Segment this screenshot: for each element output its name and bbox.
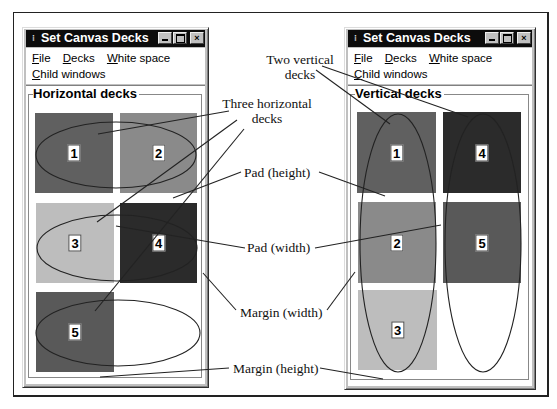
maximize-icon bbox=[176, 34, 185, 43]
maximize-icon bbox=[503, 34, 512, 43]
left-deck-5[interactable]: 5 bbox=[36, 292, 114, 372]
annotation-pad-width: Pad (width) bbox=[247, 240, 310, 255]
close-button[interactable]: × bbox=[190, 32, 204, 44]
system-menu-icon[interactable]: ⁝ bbox=[32, 30, 35, 47]
deck-number: 2 bbox=[152, 145, 165, 162]
deck-number: 1 bbox=[67, 145, 80, 162]
left-title-bar[interactable]: ⁝ Set Canvas Decks × bbox=[26, 30, 205, 47]
menu-white-space[interactable]: White space bbox=[107, 52, 170, 64]
deck-number: 3 bbox=[68, 235, 81, 252]
close-icon: × bbox=[194, 33, 199, 43]
right-title-bar[interactable]: ⁝ Set Canvas Decks × bbox=[348, 30, 532, 47]
deck-number: 5 bbox=[475, 234, 488, 251]
menu-decks[interactable]: Decks bbox=[385, 52, 417, 64]
right-deck-2[interactable]: 2 bbox=[358, 202, 436, 283]
maximize-button[interactable] bbox=[173, 32, 187, 44]
annotation-two-vertical-decks: Two vertical decks bbox=[250, 52, 350, 82]
deck-number: 4 bbox=[475, 144, 488, 161]
left-menu-bar: File Decks White space Child windows bbox=[26, 48, 205, 84]
annotation-margin-width: Margin (width) bbox=[240, 305, 323, 320]
system-menu-icon[interactable]: ⁝ bbox=[354, 30, 357, 47]
minimize-icon bbox=[489, 39, 495, 41]
annotation-pad-height: Pad (height) bbox=[244, 165, 310, 180]
minimize-icon bbox=[162, 39, 168, 41]
right-deck-5[interactable]: 5 bbox=[443, 202, 521, 283]
deck-number: 2 bbox=[390, 234, 403, 251]
maximize-button[interactable] bbox=[500, 32, 514, 44]
menu-child-windows[interactable]: Child windows bbox=[354, 68, 428, 80]
right-deck-4[interactable]: 4 bbox=[443, 112, 521, 193]
left-deck-1[interactable]: 1 bbox=[35, 113, 113, 193]
close-icon: × bbox=[521, 33, 526, 43]
deck-number: 4 bbox=[152, 235, 165, 252]
left-deck-4[interactable]: 4 bbox=[120, 203, 197, 283]
minimize-button[interactable] bbox=[485, 32, 499, 44]
group-label: Horizontal decks bbox=[33, 86, 139, 102]
left-window-title: Set Canvas Decks bbox=[41, 30, 149, 47]
left-deck-2[interactable]: 2 bbox=[120, 113, 197, 193]
minimize-button[interactable] bbox=[158, 32, 172, 44]
deck-number: 5 bbox=[68, 324, 81, 341]
right-menu-bar: File Decks White space Child windows bbox=[348, 48, 532, 84]
deck-number: 3 bbox=[391, 322, 404, 339]
menu-child-windows[interactable]: Child windows bbox=[32, 68, 106, 80]
menu-decks[interactable]: Decks bbox=[63, 52, 95, 64]
right-window-title: Set Canvas Decks bbox=[363, 30, 471, 47]
annotation-margin-height: Margin (height) bbox=[233, 361, 319, 376]
menu-file[interactable]: File bbox=[354, 52, 373, 64]
menu-file[interactable]: File bbox=[32, 52, 51, 64]
deck-number: 1 bbox=[390, 144, 403, 161]
group-label: Vertical decks bbox=[355, 86, 444, 102]
right-deck-3[interactable]: 3 bbox=[358, 290, 437, 370]
close-button[interactable]: × bbox=[517, 32, 531, 44]
menu-white-space[interactable]: White space bbox=[429, 52, 492, 64]
annotation-three-horizontal-decks: Three horizontal decks bbox=[212, 96, 322, 126]
right-deck-1[interactable]: 1 bbox=[357, 112, 436, 193]
left-deck-3[interactable]: 3 bbox=[36, 203, 114, 283]
